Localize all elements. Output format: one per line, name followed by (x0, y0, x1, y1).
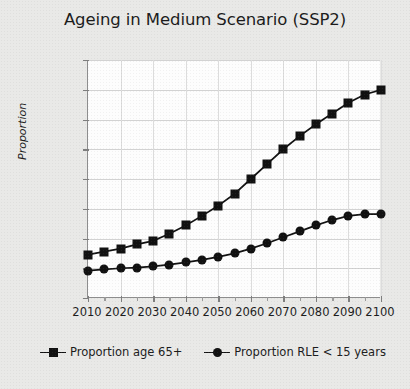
data-point-rle15 (181, 258, 190, 267)
data-point-age65 (214, 201, 223, 210)
data-series-layer (88, 60, 380, 297)
data-point-rle15 (214, 252, 223, 261)
data-point-age65 (181, 221, 190, 230)
data-point-rle15 (295, 227, 304, 236)
data-point-age65 (84, 250, 93, 259)
data-point-rle15 (132, 263, 141, 272)
x-tick-label: 2100 (365, 305, 394, 319)
gridline-vertical (381, 60, 382, 297)
series-lines (88, 60, 381, 298)
data-point-age65 (116, 244, 125, 253)
x-tick (381, 296, 382, 302)
data-point-age65 (132, 240, 141, 249)
chart-legend: Proportion age 65+ Proportion RLE < 15 y… (40, 341, 380, 363)
x-tick-label: 2080 (300, 305, 329, 319)
legend-label-age65: Proportion age 65+ (70, 345, 182, 359)
x-tick-label: 2040 (170, 305, 199, 319)
data-point-age65 (295, 132, 304, 141)
data-point-rle15 (197, 255, 206, 264)
data-point-age65 (197, 211, 206, 220)
x-tick-label: 2070 (268, 305, 297, 319)
x-tick-label: 2010 (72, 305, 101, 319)
chart-figure: Ageing in Medium Scenario (SSP2) Proport… (0, 0, 410, 389)
data-point-rle15 (165, 260, 174, 269)
data-point-rle15 (263, 239, 272, 248)
data-point-age65 (246, 175, 255, 184)
data-point-rle15 (100, 265, 109, 274)
data-point-age65 (328, 109, 337, 118)
data-point-age65 (263, 160, 272, 169)
legend-item-rle15: Proportion RLE < 15 years (204, 345, 386, 359)
x-tick-label: 2090 (333, 305, 362, 319)
data-point-age65 (149, 236, 158, 245)
data-point-age65 (377, 85, 386, 94)
series-line-age65 (88, 90, 381, 255)
data-point-rle15 (328, 216, 337, 225)
data-point-rle15 (116, 264, 125, 273)
data-point-age65 (279, 145, 288, 154)
data-point-rle15 (311, 221, 320, 230)
data-point-rle15 (344, 211, 353, 220)
x-tick-label: 2050 (203, 305, 232, 319)
data-point-age65 (230, 189, 239, 198)
data-point-age65 (165, 229, 174, 238)
square-marker-icon (40, 347, 66, 358)
data-point-rle15 (377, 210, 386, 219)
x-tick-label: 2030 (137, 305, 166, 319)
data-point-rle15 (246, 244, 255, 253)
legend-label-rle15: Proportion RLE < 15 years (234, 345, 386, 359)
data-point-rle15 (230, 249, 239, 258)
data-point-age65 (360, 90, 369, 99)
x-tick-label: 2060 (235, 305, 264, 319)
data-point-age65 (100, 247, 109, 256)
x-tick-label: 2020 (105, 305, 134, 319)
circle-marker-icon (204, 347, 230, 358)
data-point-age65 (311, 120, 320, 129)
chart-title: Ageing in Medium Scenario (SSP2) (0, 10, 410, 29)
legend-item-age65: Proportion age 65+ (40, 345, 182, 359)
data-point-rle15 (149, 262, 158, 271)
data-point-rle15 (360, 210, 369, 219)
data-point-rle15 (84, 266, 93, 275)
plot-area (87, 60, 380, 298)
data-point-rle15 (279, 233, 288, 242)
y-axis-title: Proportion (16, 103, 29, 160)
data-point-age65 (344, 98, 353, 107)
